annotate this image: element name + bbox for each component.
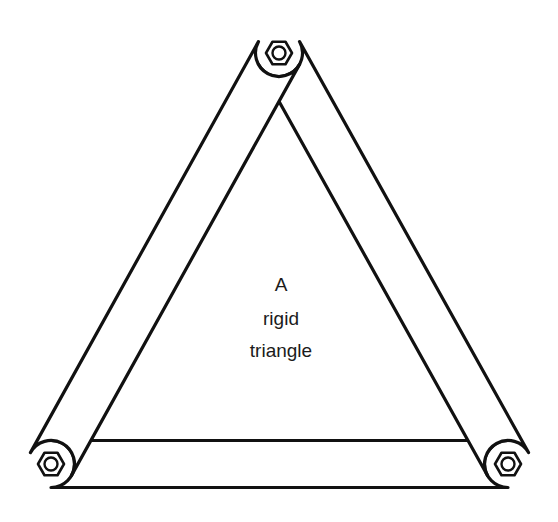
bolt-bottom-left (38, 453, 64, 476)
rigid-triangle-diagram: A rigid triangle (0, 0, 558, 522)
caption-line-triangle: triangle (250, 340, 312, 361)
bolt-top-ring-icon (273, 47, 286, 60)
bolt-bottom-right (495, 453, 521, 476)
bolt-bottom-left-ring-icon (45, 458, 58, 471)
bolt-bottom-right-ring-icon (502, 458, 515, 471)
truss-svg: A rigid triangle (0, 0, 558, 522)
caption-line-a: A (275, 274, 288, 295)
caption-line-rigid: rigid (263, 308, 299, 329)
bolt-top (266, 42, 292, 65)
bar-bottom (51, 441, 508, 488)
